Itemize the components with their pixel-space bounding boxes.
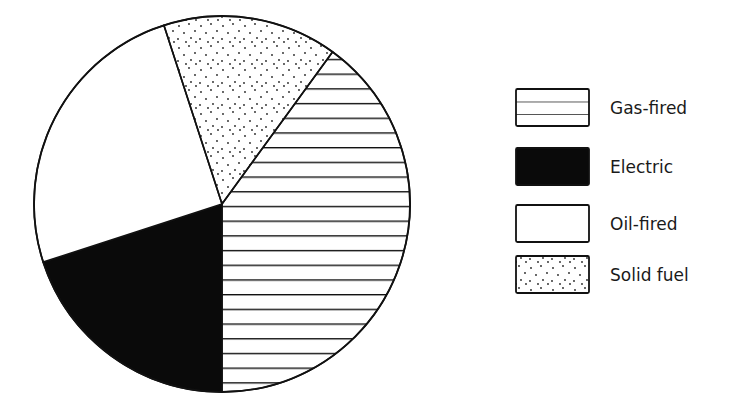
pie-chart: Gas-firedElectricOil-firedSolid fuel [0, 0, 735, 413]
legend-swatch-solid-fuel [516, 256, 589, 293]
legend-swatch-gas-fired [516, 89, 589, 126]
legend-label-gas-fired: Gas-fired [610, 98, 687, 118]
legend-label-solid-fuel: Solid fuel [610, 265, 689, 285]
legend-swatch-oil-fired [516, 205, 589, 242]
pie-slices [34, 16, 410, 392]
legend: Gas-firedElectricOil-firedSolid fuel [516, 89, 689, 293]
legend-swatch-electric [516, 148, 589, 185]
legend-label-oil-fired: Oil-fired [610, 214, 678, 234]
legend-label-electric: Electric [610, 157, 673, 177]
